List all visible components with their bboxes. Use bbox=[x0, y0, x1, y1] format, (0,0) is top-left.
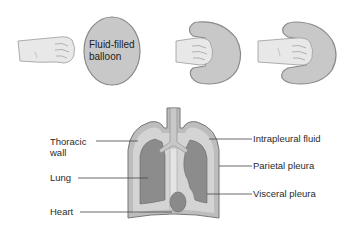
label-parietal-pleura: Parietal pleura bbox=[253, 160, 314, 171]
balloon-label: Fluid-filled balloon bbox=[89, 39, 135, 63]
fist-icon bbox=[18, 37, 75, 63]
label-thoracic-wall: Thoracic wall bbox=[50, 136, 86, 158]
thoracic-wall-line1: Thoracic bbox=[50, 136, 86, 147]
heart-shape bbox=[170, 192, 186, 212]
fist-icon bbox=[258, 38, 313, 65]
label-heart: Heart bbox=[50, 206, 73, 217]
balloon-label-line2: balloon bbox=[89, 51, 135, 63]
label-intrapleural-fluid: Intrapleural fluid bbox=[253, 133, 321, 144]
thoracic-wall-line2: wall bbox=[50, 147, 86, 158]
label-visceral-pleura: Visceral pleura bbox=[253, 188, 316, 199]
fist-icon bbox=[176, 38, 213, 65]
thorax-diagram bbox=[128, 108, 219, 218]
label-lung: Lung bbox=[50, 172, 71, 183]
balloon-label-line1: Fluid-filled bbox=[89, 39, 135, 51]
